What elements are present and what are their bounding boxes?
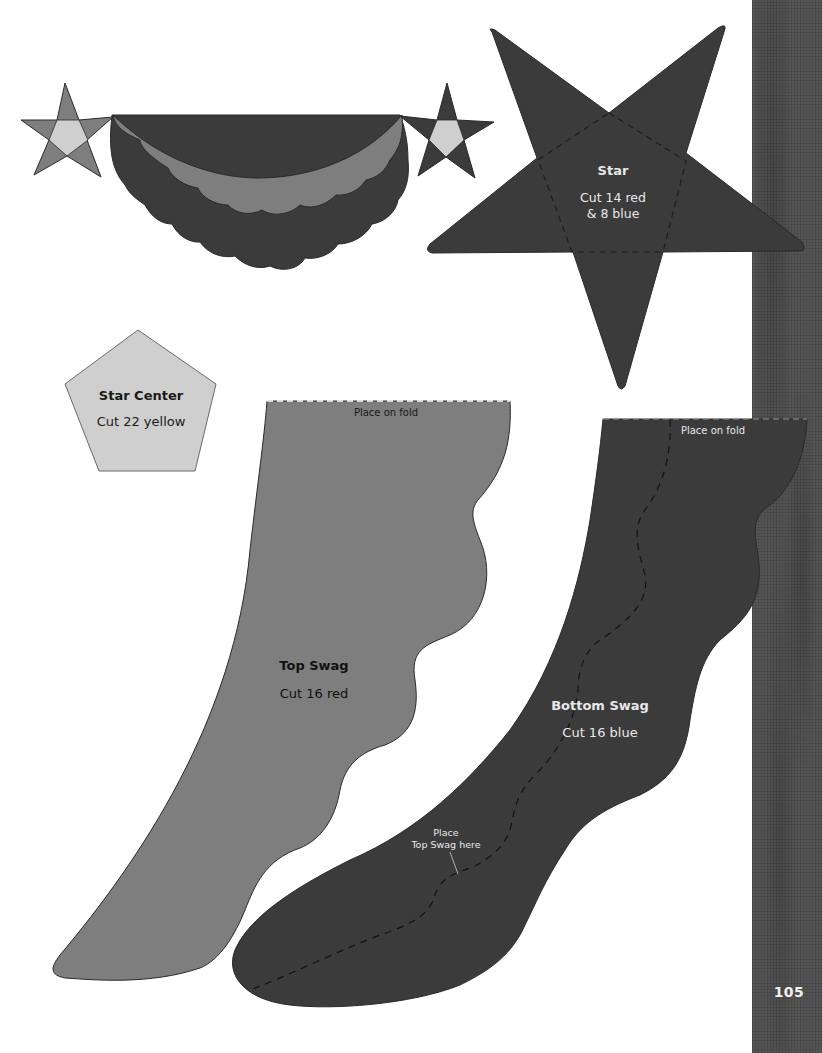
top-swag-title: Top Swag [279, 658, 348, 673]
star-cut-line2: & 8 blue [587, 206, 640, 221]
top-swag-fold-label: Place on fold [354, 407, 418, 418]
pattern-page: Star Cut 14 red & 8 blue Star Center Cut… [0, 0, 822, 1053]
page-number: 105 [764, 984, 814, 1000]
star-center-title: Star Center [99, 388, 184, 403]
pattern-artwork: Star Cut 14 red & 8 blue Star Center Cut… [0, 0, 822, 1053]
placement-label-line2: Top Swag here [410, 839, 480, 850]
star-template: Star Cut 14 red & 8 blue [427, 26, 804, 389]
bottom-swag-cut-line1: Cut 16 blue [562, 725, 637, 740]
placement-label-line1: Place [433, 827, 458, 838]
illustration-right-star [400, 83, 494, 178]
assembled-swag-illustration [21, 83, 494, 269]
star-cut-line1: Cut 14 red [580, 190, 646, 205]
top-swag-cut-line1: Cut 16 red [280, 686, 349, 701]
star-center-template: Star Center Cut 22 yellow [65, 330, 216, 471]
bottom-swag-fold-label: Place on fold [681, 425, 745, 436]
star-center-cut-line1: Cut 22 yellow [97, 414, 186, 429]
illustration-left-star [21, 83, 113, 177]
bottom-swag-title: Bottom Swag [551, 698, 649, 713]
star-title: Star [598, 163, 629, 178]
